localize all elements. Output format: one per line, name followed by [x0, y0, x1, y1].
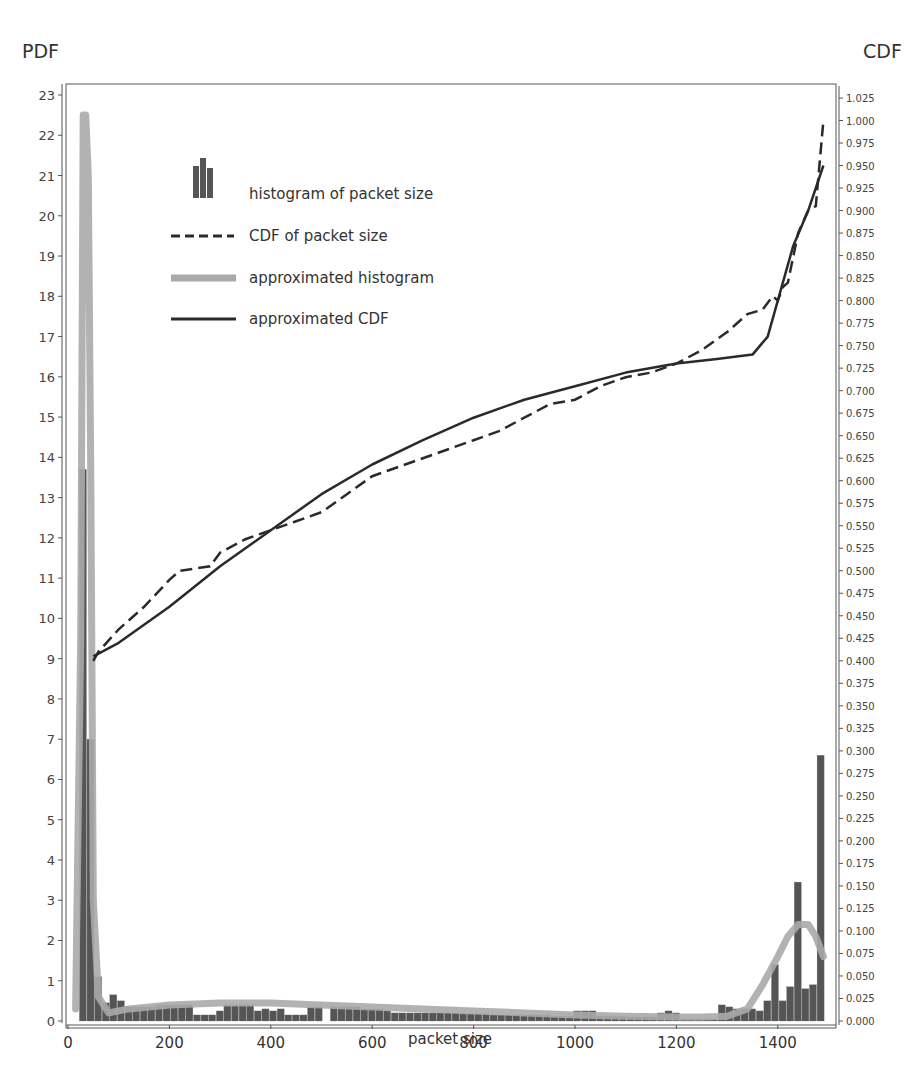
cdf-tick-label: 0.200: [846, 836, 875, 847]
histogram-bar: [475, 1014, 482, 1021]
x-axis: 0200400600800100012001400: [63, 1025, 797, 1052]
pdf-tick-label: 4: [47, 853, 55, 868]
pdf-tick-label: 16: [38, 370, 55, 385]
histogram-bar: [802, 989, 809, 1021]
cdf-tick-label: 0.425: [846, 633, 875, 644]
pdf-tick-label: 22: [38, 128, 55, 143]
histogram-bar: [444, 1013, 451, 1021]
approximated-histogram-line: [76, 115, 824, 1017]
cdf-tick-label: 1.000: [846, 116, 875, 127]
cdf-tick-label: 0.850: [846, 251, 875, 262]
pdf-tick-label: 8: [47, 692, 55, 707]
cdf-tick-label: 0.550: [846, 521, 875, 532]
pdf-tick-label: 14: [38, 450, 55, 465]
histogram-bar: [315, 1007, 322, 1021]
pdf-axis: 01234567891011121314151617181920212223: [38, 88, 62, 1029]
cdf-tick-label: 0.100: [846, 926, 875, 937]
histogram-bar: [756, 1011, 763, 1021]
cdf-tick-label: 0.650: [846, 431, 875, 442]
histogram-bar: [498, 1015, 505, 1021]
histogram-bar: [422, 1013, 429, 1021]
x-tick-label: 1000: [556, 1034, 594, 1052]
pdf-tick-label: 21: [38, 169, 55, 184]
legend: histogram of packet sizeCDF of packet si…: [171, 158, 434, 328]
pdf-tick-label: 1: [47, 974, 55, 989]
histogram-bars: [79, 469, 824, 1021]
pdf-tick-label: 10: [38, 611, 55, 626]
histogram-bar: [406, 1013, 413, 1021]
histogram-bar: [285, 1015, 292, 1021]
legend-histogram-icon: [193, 166, 199, 198]
pdf-cdf-chart: 01234567891011121314151617181920212223 0…: [0, 0, 909, 1079]
histogram-bar: [292, 1015, 299, 1021]
histogram-bar: [232, 1005, 239, 1021]
histogram-bar: [414, 1013, 421, 1021]
x-tick-label: 1400: [759, 1034, 797, 1052]
pdf-tick-label: 5: [47, 813, 55, 828]
pdf-tick-label: 12: [38, 531, 55, 546]
histogram-bar: [787, 987, 794, 1021]
cdf-tick-label: 0.750: [846, 341, 875, 352]
legend-histogram-icon: [207, 168, 213, 198]
pdf-tick-label: 13: [38, 491, 55, 506]
cdf-tick-label: 0.300: [846, 746, 875, 757]
histogram-bar: [239, 1005, 246, 1021]
x-tick-label: 400: [256, 1034, 285, 1052]
histogram-bar: [764, 1001, 771, 1021]
cdf-tick-label: 0.325: [846, 723, 875, 734]
cdf-tick-label: 0.625: [846, 453, 875, 464]
x-tick-label: 600: [358, 1034, 387, 1052]
cdf-tick-label: 0.025: [846, 993, 875, 1004]
cdf-tick-label: 0.925: [846, 183, 875, 194]
legend-histogram-icon: [200, 158, 206, 198]
histogram-bar: [452, 1013, 459, 1021]
cdf-tick-label: 0.475: [846, 588, 875, 599]
cdf-tick-label: 0.950: [846, 161, 875, 172]
histogram-bar: [794, 882, 801, 1021]
pdf-tick-label: 19: [38, 249, 55, 264]
plot-frame: [62, 84, 839, 1028]
histogram-bar: [779, 1001, 786, 1021]
pdf-tick-label: 23: [38, 88, 55, 103]
pdf-tick-label: 6: [47, 772, 55, 787]
histogram-bar: [460, 1014, 467, 1021]
histogram-bar: [384, 1011, 391, 1021]
histogram-bar: [300, 1015, 307, 1021]
cdf-tick-label: 0.900: [846, 206, 875, 217]
histogram-bar: [308, 1007, 315, 1021]
cdf-tick-label: 0.875: [846, 228, 875, 239]
histogram-bar: [361, 1009, 368, 1021]
cdf-tick-label: 0.175: [846, 858, 875, 869]
cdf-tick-label: 0.000: [846, 1016, 875, 1027]
pdf-tick-label: 18: [38, 289, 55, 304]
pdf-tick-label: 15: [38, 410, 55, 425]
pdf-tick-label: 2: [47, 933, 55, 948]
histogram-bar: [193, 1015, 200, 1021]
cdf-tick-label: 0.150: [846, 881, 875, 892]
cdf-tick-label: 0.575: [846, 498, 875, 509]
cdf-tick-label: 0.275: [846, 768, 875, 779]
histogram-bar: [817, 755, 824, 1021]
cdf-tick-label: 0.800: [846, 296, 875, 307]
histogram-bar: [391, 1013, 398, 1021]
cdf-tick-label: 0.500: [846, 566, 875, 577]
cdf-tick-label: 0.725: [846, 363, 875, 374]
histogram-bar: [247, 1005, 254, 1021]
histogram-bar: [201, 1015, 208, 1021]
pdf-tick-label: 3: [47, 893, 55, 908]
histogram-bar: [209, 1015, 216, 1021]
cdf-tick-label: 0.125: [846, 903, 875, 914]
histogram-bar: [262, 1009, 269, 1021]
cdf-tick-label: 0.050: [846, 971, 875, 982]
histogram-bar: [216, 1011, 223, 1021]
cdf-tick-label: 1.025: [846, 93, 875, 104]
cdf-tick-label: 0.600: [846, 476, 875, 487]
histogram-bar: [429, 1013, 436, 1021]
histogram-bar: [368, 1009, 375, 1021]
histogram-bar: [809, 985, 816, 1021]
cdf-tick-label: 0.975: [846, 138, 875, 149]
cdf-tick-label: 0.450: [846, 611, 875, 622]
pdf-tick-label: 9: [47, 652, 55, 667]
legend-label: approximated histogram: [249, 269, 434, 287]
histogram-bar: [467, 1014, 474, 1021]
